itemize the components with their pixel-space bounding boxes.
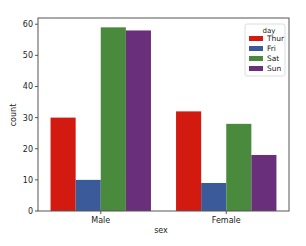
legend-label-fri: Fri: [267, 44, 276, 53]
y-tick-label: 40: [23, 82, 33, 91]
bar-female-sun: [251, 155, 276, 211]
x-axis-label: sex: [154, 226, 168, 235]
x-axis: MaleFemale: [91, 211, 241, 225]
bar-female-sat: [226, 124, 251, 211]
legend-label-thur: Thur: [266, 34, 285, 43]
legend-label-sun: Sun: [267, 64, 282, 73]
x-tick-label: Male: [91, 216, 110, 225]
y-tick-label: 10: [23, 176, 33, 185]
y-tick-label: 0: [28, 207, 33, 216]
y-axis-label: count: [9, 104, 18, 127]
legend-swatch-thur: [249, 36, 263, 41]
bar-male-sun: [126, 30, 151, 211]
bar-female-fri: [201, 183, 226, 211]
legend-swatch-sun: [249, 66, 263, 71]
y-tick-label: 20: [23, 145, 33, 154]
legend: dayThurFriSatSun: [245, 24, 285, 76]
y-axis: 0102030405060: [23, 20, 38, 216]
bar-male-fri: [76, 180, 101, 211]
legend-swatch-fri: [249, 46, 263, 51]
y-tick-label: 50: [23, 51, 33, 60]
legend-swatch-sat: [249, 56, 263, 61]
bar-chart: 0102030405060 MaleFemale count sex dayTh…: [0, 0, 306, 246]
bar-male-sat: [101, 27, 126, 211]
legend-label-sat: Sat: [267, 54, 279, 63]
x-tick-label: Female: [212, 216, 241, 225]
y-tick-label: 30: [23, 114, 33, 123]
bar-female-thur: [176, 111, 201, 211]
bars-layer: [51, 27, 277, 211]
bar-male-thur: [51, 118, 76, 211]
y-tick-label: 60: [23, 20, 33, 29]
